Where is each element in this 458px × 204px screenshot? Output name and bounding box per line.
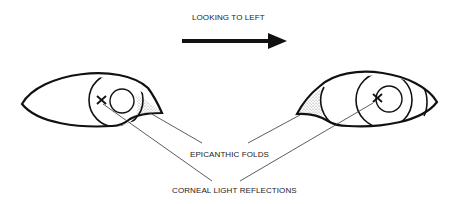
diagram-canvas: LOOKING TO LEFT bbox=[0, 0, 458, 204]
corneal-reflections-label: CORNEAL LIGHT REFLECTIONS bbox=[172, 186, 297, 195]
direction-arrow-icon bbox=[182, 33, 287, 49]
left-eye bbox=[22, 73, 162, 127]
direction-label: LOOKING TO LEFT bbox=[192, 13, 265, 22]
left-pupil bbox=[110, 89, 134, 113]
right-eye bbox=[297, 72, 437, 128]
left-reflection-x-icon bbox=[97, 96, 106, 104]
epicanthic-folds-label: EPICANTHIC FOLDS bbox=[190, 150, 269, 159]
